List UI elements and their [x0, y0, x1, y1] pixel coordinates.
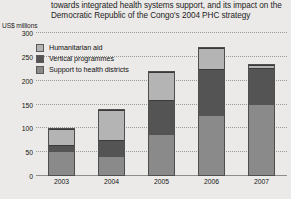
y-axis-tick-300: 300: [22, 30, 33, 37]
x-axis-tick-2005: 2005: [149, 178, 174, 185]
x-axis-tick-2007: 2007: [249, 178, 274, 185]
bar-segment-2003-vertical-programmes[interactable]: [49, 145, 74, 152]
bar-segment-2007-vertical-programmes[interactable]: [249, 68, 274, 105]
bar-segment-2005-vertical-programmes[interactable]: [149, 100, 174, 135]
x-axis-tick-2003: 2003: [49, 178, 74, 185]
legend-item-vertical-programmes[interactable]: Vertical programmes: [36, 53, 129, 64]
legend-item-humanitarian-aid[interactable]: Humanitarian aid: [36, 42, 129, 53]
legend-label-vertical-programmes: Vertical programmes: [49, 54, 114, 63]
bar-segment-2004-humanitarian-aid[interactable]: [99, 110, 124, 140]
y-axis-tick-200: 200: [22, 77, 33, 84]
y-axis-tick-0: 0: [29, 173, 33, 180]
bar-segment-2006-support-to-health-districts[interactable]: [199, 116, 224, 175]
chart-title-line-1: towards integrated health systems suppor…: [51, 1, 289, 11]
bar-segment-2004-support-to-health-districts[interactable]: [99, 157, 124, 175]
x-axis-tick-2004: 2004: [99, 178, 124, 185]
chart-legend: Humanitarian aidVertical programmesSuppo…: [36, 42, 129, 75]
y-axis-tick-50: 50: [25, 149, 33, 156]
bar-segment-2005-support-to-health-districts[interactable]: [149, 135, 174, 175]
legend-label-humanitarian-aid: Humanitarian aid: [49, 43, 103, 52]
chart-title-line-2: Democratic Republic of the Congo's 2004 …: [51, 11, 289, 21]
legend-swatch-vertical-programmes: [36, 55, 44, 63]
bar-2005[interactable]: 2005: [148, 71, 175, 176]
bar-2004[interactable]: 2004: [98, 109, 125, 176]
bar-segment-2005-humanitarian-aid[interactable]: [149, 72, 174, 100]
y-axis-tick-250: 250: [22, 53, 33, 60]
bar-2006[interactable]: 2006: [198, 47, 225, 176]
y-axis-tick-100: 100: [22, 125, 33, 132]
y-gridline-300: 300: [36, 32, 287, 33]
bar-segment-2006-vertical-programmes[interactable]: [199, 69, 224, 116]
chart-title: towards integrated health systems suppor…: [51, 1, 289, 22]
bar-segment-2003-humanitarian-aid[interactable]: [49, 129, 74, 145]
bar-2003[interactable]: 2003: [48, 128, 75, 176]
legend-label-support-to-health-districts: Support to health districts: [49, 65, 129, 74]
legend-swatch-humanitarian-aid: [36, 44, 44, 52]
bar-segment-2003-support-to-health-districts[interactable]: [49, 152, 74, 175]
bar-2007[interactable]: 2007: [248, 64, 275, 176]
bar-segment-2004-vertical-programmes[interactable]: [99, 140, 124, 156]
x-axis-tick-2006: 2006: [199, 178, 224, 185]
y-axis-unit-label: US$ millions: [2, 22, 37, 29]
bar-segment-2006-humanitarian-aid[interactable]: [199, 48, 224, 69]
y-axis-tick-150: 150: [22, 101, 33, 108]
legend-item-support-to-health-districts[interactable]: Support to health districts: [36, 64, 129, 75]
bar-segment-2007-support-to-health-districts[interactable]: [249, 105, 274, 175]
legend-swatch-support-to-health-districts: [36, 66, 44, 74]
